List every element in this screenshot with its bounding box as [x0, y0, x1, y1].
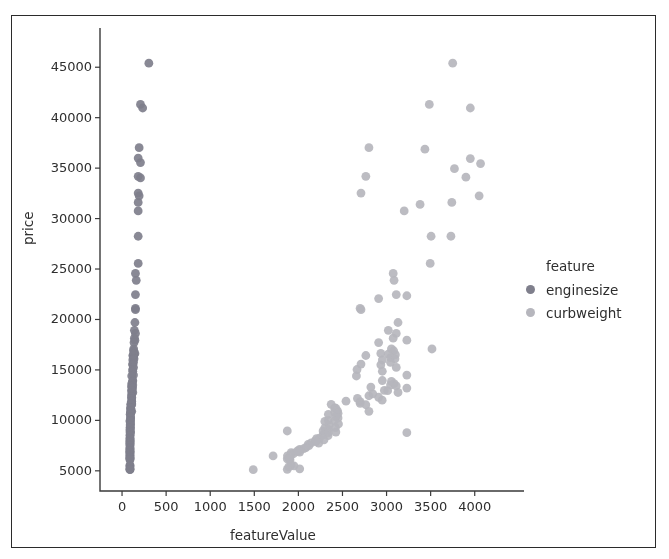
legend-entry[interactable]: enginesize: [522, 281, 642, 298]
y-tick-label: 10000: [34, 412, 92, 427]
y-tick-label: 15000: [34, 362, 92, 377]
legend-title: feature: [546, 258, 642, 274]
x-tick-label: 4000: [445, 499, 505, 514]
y-tick-label: 20000: [34, 311, 92, 326]
y-tick-label: 40000: [34, 110, 92, 125]
legend-entry-label: enginesize: [546, 282, 618, 298]
x-axis-label: featureValue: [230, 527, 316, 543]
y-tick-label: 35000: [34, 160, 92, 175]
legend-entry-group: enginesizecurbweight: [522, 281, 642, 321]
y-tick-label: 5000: [34, 463, 92, 478]
y-tick-label: 30000: [34, 211, 92, 226]
legend-marker-icon: [526, 308, 535, 317]
y-tick-label: 45000: [34, 59, 92, 74]
legend: feature enginesizecurbweight: [522, 258, 642, 327]
legend-entry[interactable]: curbweight: [522, 304, 642, 321]
y-tick-label: 25000: [34, 261, 92, 276]
legend-marker-icon: [526, 285, 535, 294]
legend-entry-label: curbweight: [546, 305, 622, 321]
